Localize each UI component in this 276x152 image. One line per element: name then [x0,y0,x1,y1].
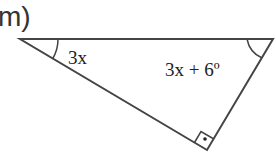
triangle [20,39,273,150]
right-angle-marker [195,132,214,143]
angle-label-right: 3x + 6º [165,59,220,80]
angle-arc-left [53,39,59,59]
right-angle-dot [203,137,207,141]
triangle-diagram: m) 3x 3x + 6º [0,0,276,152]
angle-label-left: 3x [68,47,88,68]
angle-arc-right [247,39,262,58]
part-label: m) [0,1,31,32]
